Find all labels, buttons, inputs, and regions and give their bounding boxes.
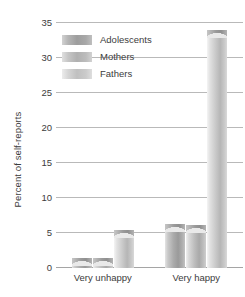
chart-legend: AdolescentsMothersFathers xyxy=(62,31,192,82)
bar-mothers-very-happy xyxy=(186,225,206,268)
legend-label-adolescents: Adolescents xyxy=(100,35,152,45)
bar-cap xyxy=(186,225,206,233)
bar-cap xyxy=(72,258,92,266)
bar-adolescents-very-happy xyxy=(165,224,185,268)
bar-mothers-very-unhappy xyxy=(93,258,113,269)
y-tick-label-15: 15 xyxy=(26,158,52,168)
bar-fathers-very-happy xyxy=(207,30,227,268)
x-axis-tick-labels: Very unhappyVery happy xyxy=(56,272,243,292)
legend-label-mothers: Mothers xyxy=(100,52,134,62)
x-tick-label-very-unhappy: Very unhappy xyxy=(74,272,132,283)
legend-swatch-fathers xyxy=(62,69,92,79)
bar-adolescents-very-unhappy xyxy=(72,258,92,269)
legend-item-mothers: Mothers xyxy=(62,48,192,65)
y-tick-label-25: 25 xyxy=(26,88,52,98)
y-tick-label-30: 30 xyxy=(26,53,52,63)
bar-body xyxy=(186,229,206,268)
bar-chart: Percent of self-reports 05101520253035 V… xyxy=(0,0,245,297)
y-tick-label-5: 5 xyxy=(26,228,52,238)
y-tick-label-0: 0 xyxy=(26,263,52,273)
legend-swatch-mothers xyxy=(62,52,92,62)
gridline-35 xyxy=(56,22,243,23)
bar-body xyxy=(207,34,227,268)
bar-cap xyxy=(114,230,134,238)
bar-body xyxy=(165,228,185,268)
y-tick-label-35: 35 xyxy=(26,18,52,28)
bar-cap xyxy=(207,30,227,38)
y-tick-label-10: 10 xyxy=(26,193,52,203)
legend-item-adolescents: Adolescents xyxy=(62,31,192,48)
legend-label-fathers: Fathers xyxy=(100,69,132,79)
bar-cap xyxy=(93,258,113,266)
bar-body xyxy=(114,234,134,269)
legend-item-fathers: Fathers xyxy=(62,65,192,82)
bar-cap xyxy=(165,224,185,232)
y-axis-title: Percent of self-reports xyxy=(12,67,23,253)
legend-swatch-adolescents xyxy=(62,35,92,45)
bar-fathers-very-unhappy xyxy=(114,230,134,269)
x-tick-label-very-happy: Very happy xyxy=(172,272,220,283)
y-tick-label-20: 20 xyxy=(26,123,52,133)
